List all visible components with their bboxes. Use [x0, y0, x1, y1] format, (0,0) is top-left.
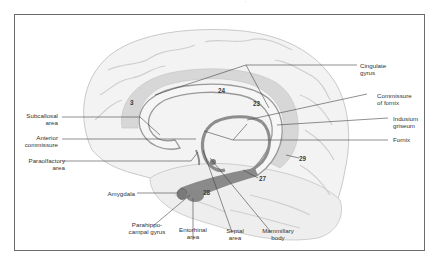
area-number-28: 28 [203, 189, 210, 196]
label-mammillary-body: Mammillary body [255, 227, 301, 242]
label-septal-area: Septal area [220, 227, 250, 242]
amygdala-body [177, 189, 187, 200]
label-anterior-commissure: Anterior commissure [18, 134, 58, 149]
label-parahippocampal-gyrus: Parahippo- campal gyrus [122, 221, 172, 236]
label-fornix: Fornix [393, 136, 410, 143]
label-amygdala: Amygdala [95, 190, 135, 197]
area-number-27: 27 [259, 175, 266, 182]
label-paraolfactory-area: Paraolfactory area [15, 157, 65, 172]
area-number-24: 24 [218, 87, 225, 94]
label-cingulate-gyrus: Cingulate gyrus [360, 62, 386, 77]
label-entorhinal-area: Entorhinal area [170, 226, 216, 241]
area-number-3: 3 [130, 99, 134, 106]
brain-illustration [0, 0, 441, 264]
area-number-23: 23 [253, 100, 260, 107]
area-number-29: 29 [299, 155, 306, 162]
label-commissure-of-fornix: Commissure of fornix [377, 92, 412, 107]
label-indusium-griseum: Indusium griseum [393, 115, 418, 130]
label-subcallosal-area: Subcallosal area [20, 112, 58, 127]
